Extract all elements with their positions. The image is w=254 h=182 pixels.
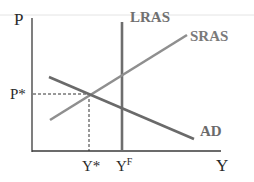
y-f-label: YF [116,156,133,174]
diagram-canvas: P Y P* Y* YF LRAS SRAS AD [0,0,254,182]
y-star-label: Y* [82,158,100,174]
ad-label: AD [200,123,222,139]
y-axis-label: P [14,10,23,29]
x-axis-label: Y [216,156,228,175]
sras-label: SRAS [190,28,228,44]
as-ad-diagram: P Y P* Y* YF LRAS SRAS AD [0,0,254,182]
lras-label: LRAS [130,9,170,25]
p-star-label: P* [10,86,26,102]
